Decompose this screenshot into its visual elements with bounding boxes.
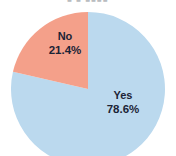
pie-label-yes: Yes 78.6% [90, 90, 156, 115]
pie-label-no-name: No [58, 30, 73, 42]
pie-label-yes-percent: 78.6% [90, 103, 156, 115]
pie-label-no: No 21.4% [33, 31, 97, 56]
pie-label-no-percent: 21.4% [33, 44, 97, 56]
chart-title-cropped: ■ ■ ■■■■ [0, 0, 176, 4]
pie-label-yes-name: Yes [114, 89, 133, 101]
pie-chart-figure: ■ ■ ■■■■ No 21.4% Yes 78.6% [0, 0, 176, 156]
